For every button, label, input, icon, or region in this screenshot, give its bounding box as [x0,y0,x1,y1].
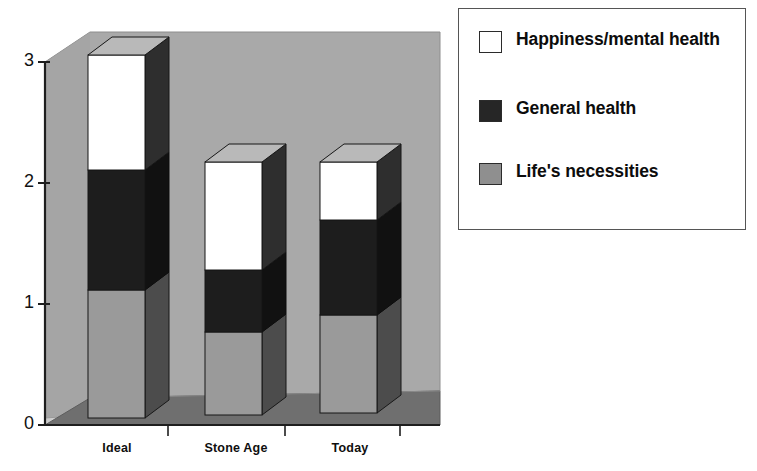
bar-group-today[interactable] [320,144,401,413]
y-tick-label-2: 2 [8,171,34,192]
legend-swatch-icon-general-health [479,100,502,122]
bar-segment-ideal-general-health[interactable] [88,152,169,290]
legend-item-general-health[interactable]: General health [479,98,636,122]
bar-group-ideal[interactable] [88,37,169,418]
bar-segment-stone-age-happiness[interactable] [205,144,286,270]
legend-item-lifes-necessities[interactable]: Life's necessities [479,161,658,185]
bar-segment-ideal-lifes-necessities[interactable] [88,272,169,418]
y-tick-label-0: 0 [8,413,34,434]
plot-area: 3 2 1 0 Ideal Stone Age Today [0,0,460,471]
legend-swatch-icon-lifes-necessities [479,163,502,185]
chart-left-wall [45,32,90,425]
bar-segment-today-happiness[interactable] [320,144,401,220]
y-tick-label-3: 3 [8,50,34,71]
chart-root: 3 2 1 0 Ideal Stone Age Today Happiness/… [0,0,757,471]
y-tick-label-1: 1 [8,292,34,313]
legend-label-happiness: Happiness/mental health [516,29,720,50]
bar-group-stone-age[interactable] [205,144,286,415]
x-axis [45,425,440,436]
column-chart-svg [0,0,460,471]
x-tick-label-ideal: Ideal [77,441,157,455]
chart-legend: Happiness/mental health General health L… [458,8,746,230]
x-tick-label-today: Today [310,441,390,455]
bar-segment-ideal-happiness[interactable] [88,37,169,170]
legend-label-lifes-necessities: Life's necessities [516,161,658,182]
legend-swatch-icon-happiness [479,31,502,53]
legend-label-general-health: General health [516,98,636,119]
x-tick-label-stone-age: Stone Age [193,441,279,455]
legend-item-happiness-mental-health[interactable]: Happiness/mental health [479,29,720,53]
